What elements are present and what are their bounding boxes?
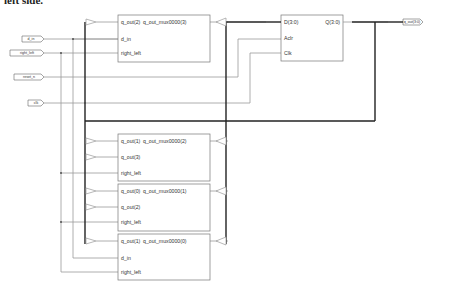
input-port-clk[interactable]: clk	[28, 100, 44, 106]
svg-text:d_in: d_in	[121, 255, 131, 261]
svg-text:Q(3:0): Q(3:0)	[325, 19, 340, 25]
svg-text:reset_n: reset_n	[23, 75, 35, 79]
schematic-canvas: d_in right_left reset_n clk q_out(3:0) q…	[0, 0, 454, 291]
mux-block-2[interactable]: q_out(1) q_out_mux0000(2) q_out(3) right…	[118, 134, 210, 181]
ripper-icon	[86, 238, 96, 244]
register-block[interactable]: D(3:0) Q(3:0) Aclr Clk	[266, 15, 352, 61]
svg-text:q_out(3): q_out(3)	[121, 154, 141, 160]
ripper-icon	[86, 188, 96, 194]
ripper-icon	[86, 154, 96, 160]
svg-text:q_out(3:0): q_out(3:0)	[404, 20, 420, 24]
svg-text:Clk: Clk	[284, 50, 292, 56]
mux-block-0[interactable]: q_out(1) q_out_mux0000(0) d_in right_lef…	[118, 234, 210, 280]
ripper-icon	[86, 204, 96, 210]
svg-text:q_out_mux0000(2): q_out_mux0000(2)	[143, 138, 187, 144]
svg-text:right_left: right_left	[121, 170, 141, 176]
svg-text:clk: clk	[34, 101, 39, 105]
ripper-icon	[216, 137, 226, 145]
ripper-icon	[86, 19, 96, 25]
svg-text:q_out(0): q_out(0)	[121, 188, 141, 194]
svg-text:right_left: right_left	[121, 269, 141, 275]
svg-text:q_out_mux0000(1): q_out_mux0000(1)	[143, 188, 187, 194]
svg-text:q_out_mux0000(0): q_out_mux0000(0)	[143, 238, 187, 244]
mux-block-3[interactable]: q_out(2) q_out_mux0000(3) d_in right_lef…	[118, 15, 210, 62]
input-port-d-in[interactable]: d_in	[22, 36, 44, 42]
output-port-q-out[interactable]: q_out(3:0)	[388, 19, 423, 25]
svg-text:q_out_mux0000(3): q_out_mux0000(3)	[143, 19, 187, 25]
ripper-icon	[216, 18, 226, 26]
svg-text:q_out(2): q_out(2)	[121, 19, 141, 25]
mux-block-1[interactable]: q_out(0) q_out_mux0000(1) q_out(2) right…	[118, 184, 210, 231]
svg-text:D(3:0): D(3:0)	[284, 19, 299, 25]
svg-text:d_in: d_in	[121, 36, 131, 42]
svg-text:right_left: right_left	[20, 51, 34, 55]
svg-text:right_left: right_left	[121, 50, 141, 56]
input-port-reset-n[interactable]: reset_n	[14, 74, 44, 80]
svg-text:right_left: right_left	[121, 219, 141, 225]
svg-text:Aclr: Aclr	[284, 35, 293, 41]
svg-text:q_out(1): q_out(1)	[121, 138, 141, 144]
ripper-icon	[86, 138, 96, 144]
input-port-right-left[interactable]: right_left	[10, 50, 44, 56]
svg-text:d_in: d_in	[28, 37, 35, 41]
svg-text:q_out(2): q_out(2)	[121, 204, 141, 210]
ripper-icon	[216, 187, 226, 195]
ripper-icon	[216, 237, 226, 245]
svg-text:q_out(1): q_out(1)	[121, 238, 141, 244]
